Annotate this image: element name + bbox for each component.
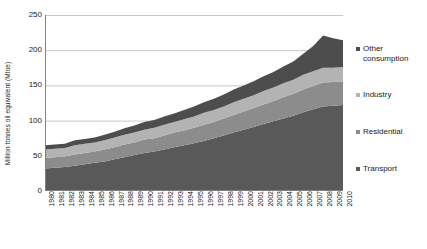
legend-label: Residential: [363, 127, 403, 137]
x-axis-tick-label: 2003: [276, 191, 283, 231]
x-axis-tick-label: 1990: [147, 191, 154, 231]
x-axis-tick-label: 2000: [247, 191, 254, 231]
x-axis-tick-label: 1984: [88, 191, 95, 231]
x-axis-tick-label: 1992: [167, 191, 174, 231]
y-axis-tick-label: 0: [16, 187, 42, 195]
x-axis-tick-label: 1983: [78, 191, 85, 231]
y-axis-tick-labels: 050100150200250: [12, 0, 42, 249]
y-axis-tick-label: 100: [16, 117, 42, 125]
legend-swatch-icon: [356, 130, 360, 134]
x-axis-tick-label: 1997: [217, 191, 224, 231]
x-axis-tick-label: 1980: [48, 191, 55, 231]
legend-entry[interactable]: Transport: [356, 164, 397, 174]
x-axis-tick-label: 1991: [157, 191, 164, 231]
legend-entry[interactable]: Industry: [356, 90, 391, 100]
x-axis-tick-labels: 1980198119821983198419851986198719881989…: [45, 191, 343, 249]
x-axis-tick-label: 1988: [127, 191, 134, 231]
legend-swatch-icon: [356, 167, 360, 171]
x-axis-tick-label: 2006: [306, 191, 313, 231]
legend-label: Other consumption: [363, 44, 408, 63]
x-axis-tick-label: 2008: [326, 191, 333, 231]
legend-entry[interactable]: Other consumption: [356, 44, 408, 63]
chart-legend: Other consumptionIndustryResidentialTran…: [356, 44, 427, 194]
y-axis-tick-label: 200: [16, 46, 42, 54]
legend-label: Transport: [363, 164, 397, 174]
x-axis-tick-label: 1986: [108, 191, 115, 231]
legend-swatch-icon: [356, 93, 360, 97]
x-axis-tick-label: 2009: [336, 191, 343, 231]
x-axis-tick-label: 1989: [137, 191, 144, 231]
x-axis-tick-label: 2010: [346, 191, 353, 231]
x-axis-tick-label: 2001: [257, 191, 264, 231]
y-axis-title-text: Million tonnes oil equivalent (Mtoe): [5, 61, 12, 165]
x-axis-tick-label: 1995: [197, 191, 204, 231]
stacked-area-chart: Million tonnes oil equivalent (Mtoe) 050…: [0, 0, 427, 249]
y-axis-tick-label: 250: [16, 11, 42, 19]
x-axis-tick-label: 2007: [316, 191, 323, 231]
plot-area: [45, 15, 343, 191]
legend-label: Industry: [363, 90, 391, 100]
x-axis-tick-label: 1981: [58, 191, 65, 231]
x-axis-tick-label: 1982: [68, 191, 75, 231]
x-axis-tick-label: 2005: [296, 191, 303, 231]
x-axis-tick-label: 1993: [177, 191, 184, 231]
y-axis-tick-label: 150: [16, 81, 42, 89]
x-axis-tick-label: 1996: [207, 191, 214, 231]
x-axis-tick-label: 2002: [267, 191, 274, 231]
y-axis-tick-label: 50: [16, 152, 42, 160]
x-axis-tick-label: 1987: [118, 191, 125, 231]
x-axis-tick-label: 1994: [187, 191, 194, 231]
x-axis-tick-label: 1998: [227, 191, 234, 231]
plot-svg: [45, 15, 343, 191]
legend-entry[interactable]: Residential: [356, 127, 403, 137]
x-axis-tick-label: 1999: [237, 191, 244, 231]
legend-swatch-icon: [356, 47, 360, 51]
x-axis-tick-label: 2004: [286, 191, 293, 231]
x-axis-tick-label: 1985: [98, 191, 105, 231]
